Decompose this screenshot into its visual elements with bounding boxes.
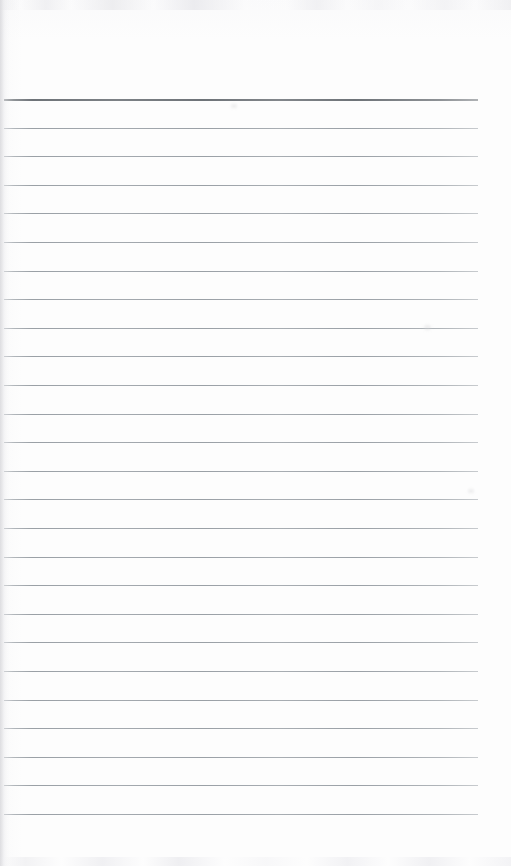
rule-line [4, 385, 478, 386]
rule-line [4, 156, 478, 157]
rule-line [4, 356, 478, 357]
rule-line [4, 671, 478, 672]
ruled-lines-layer [0, 0, 511, 866]
rule-line [4, 185, 478, 186]
rule-line [4, 585, 478, 586]
rule-line [4, 299, 478, 300]
rule-line [4, 728, 478, 729]
rule-line [4, 528, 478, 529]
rule-line [4, 814, 478, 815]
scanned-page [0, 0, 511, 866]
scan-smudge [231, 104, 237, 108]
rule-line [4, 499, 478, 500]
rule-line [4, 700, 478, 701]
header-rule-line [4, 99, 478, 101]
scan-smudge [424, 325, 431, 330]
rule-line [4, 328, 478, 329]
rule-line [4, 557, 478, 558]
rule-line [4, 614, 478, 615]
rule-line [4, 442, 478, 443]
rule-line [4, 128, 478, 129]
scan-smudge [468, 489, 474, 493]
rule-line [4, 757, 478, 758]
scan-noise-top-band [0, 0, 511, 10]
rule-line [4, 213, 478, 214]
scan-noise-bottom-band [0, 857, 511, 866]
rule-line [4, 471, 478, 472]
rule-line [4, 271, 478, 272]
rule-line [4, 242, 478, 243]
rule-line [4, 785, 478, 786]
rule-line [4, 642, 478, 643]
rule-line [4, 414, 478, 415]
